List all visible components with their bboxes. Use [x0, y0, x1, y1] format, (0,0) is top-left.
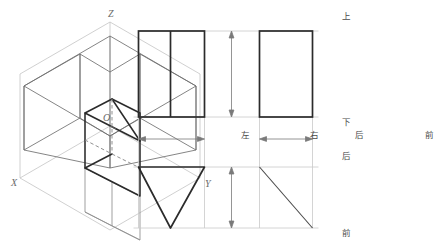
orthographic-svg — [0, 0, 446, 246]
dimension-horizontal-right — [260, 137, 313, 142]
dim-arrow-back-h — [260, 137, 267, 142]
dim-arrow-left — [139, 137, 146, 142]
technical-drawing-figure: Z X Y O — [0, 0, 446, 246]
top-view-triangle — [139, 167, 205, 228]
dim-arrow-up — [229, 31, 234, 38]
dim-label-down: 下 — [342, 118, 351, 127]
dim-arrow-back-v — [229, 167, 234, 174]
dim-label-up: 上 — [342, 12, 351, 21]
dim-label-back-vertical: 后 — [342, 152, 351, 161]
dim-arrow-front-v — [229, 221, 234, 228]
dimension-vertical-lower — [229, 167, 234, 228]
side-view-outline — [260, 31, 313, 117]
aux-view-diagonal — [260, 167, 313, 228]
orthographic-projection-layout: 上 下 左 右 后 前 后 前 — [223, 0, 446, 246]
dim-label-front-vertical: 前 — [342, 229, 351, 238]
dim-label-front-horizontal: 前 — [425, 131, 434, 140]
construction-lines — [134, 31, 319, 228]
front-view — [139, 31, 205, 117]
front-view-outline — [139, 31, 205, 117]
dim-label-left: 左 — [241, 131, 250, 140]
dim-arrow-right — [198, 137, 205, 142]
top-view — [139, 167, 205, 228]
side-view — [260, 31, 313, 117]
dim-label-back-horizontal: 后 — [355, 131, 364, 140]
dim-label-right: 右 — [310, 131, 319, 140]
dimension-vertical-upper — [229, 31, 234, 117]
aux-view — [260, 167, 313, 228]
dim-arrow-down — [229, 110, 234, 117]
dimension-horizontal-left — [139, 137, 205, 142]
